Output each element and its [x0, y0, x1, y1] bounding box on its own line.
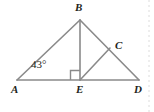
right-angle-marker-at-E: [71, 71, 81, 81]
figure-canvas: [0, 0, 154, 112]
vertex-label-d: D: [134, 84, 142, 95]
vertex-label-c: C: [115, 40, 122, 51]
angle-measure-label-a: 43°: [31, 59, 46, 70]
vertex-label-b: B: [75, 2, 82, 13]
vertex-label-a: A: [11, 84, 18, 95]
vertex-label-e: E: [76, 84, 83, 95]
geometry-figure: A B C D E 43°: [0, 0, 154, 112]
segment-EC: [80, 48, 110, 80]
